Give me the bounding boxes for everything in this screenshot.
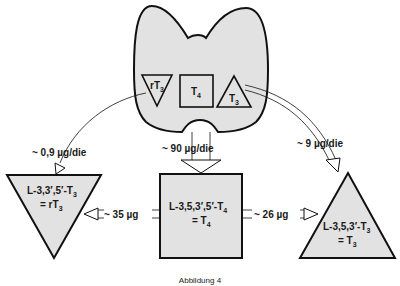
thyroid-hormone-diagram: rT3 T4 T3 ~ 0,9 µg/die ~ 9 µg/die ~ 90 µ… [0,0,400,286]
arrowhead-rT3 [55,163,65,174]
arrowhead-T4-to-rT3 [84,208,98,220]
arrowhead-T3 [326,158,340,172]
svg-text:~ 26 µg: ~ 26 µg [254,209,288,220]
svg-text:~ 35 µg: ~ 35 µg [104,209,138,220]
svg-text:~ 0,9 µg/die: ~ 0,9 µg/die [32,147,87,158]
svg-text:~ 90 µg/die: ~ 90 µg/die [162,143,214,154]
arrowhead-T4-to-T3 [304,208,318,220]
thyroid-gland [134,6,268,132]
arrowhead-T4 [181,160,221,173]
svg-text:~ 9 µg/die: ~ 9 µg/die [297,138,343,149]
caption: Abbildung 4 [179,276,222,285]
